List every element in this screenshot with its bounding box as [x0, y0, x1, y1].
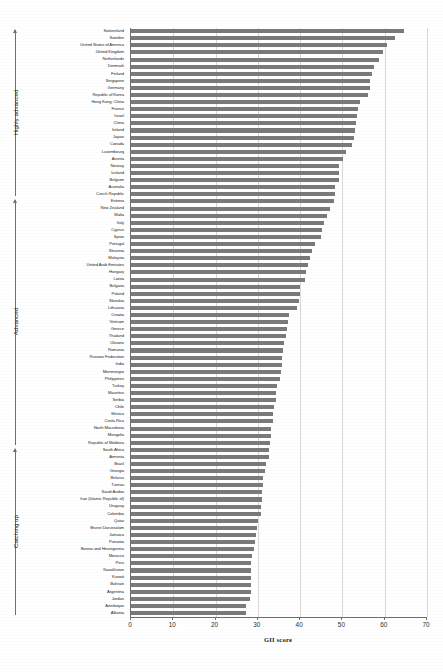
country-label: Estonia: [111, 199, 124, 204]
bar-row: [131, 128, 355, 132]
bar-row: [131, 568, 251, 572]
x-tick-mark: [215, 617, 216, 620]
country-label: Russian Federation: [90, 355, 124, 360]
bar: [131, 192, 335, 196]
bar-row: [131, 497, 262, 501]
country-label: Netherlands: [103, 57, 124, 62]
bar-row: [131, 341, 284, 345]
bar-row: [131, 93, 368, 97]
country-label: Argentina: [107, 590, 124, 595]
plot-area: [130, 28, 427, 618]
bar-row: [131, 256, 310, 260]
bar: [131, 512, 261, 516]
bar-row: [131, 221, 324, 225]
bar-row: [131, 164, 339, 168]
x-tick-mark: [299, 617, 300, 620]
country-label: New Zealand: [100, 206, 124, 211]
bar: [131, 278, 305, 282]
bar: [131, 228, 322, 232]
bar-row: [131, 157, 343, 161]
bar: [131, 185, 335, 189]
bar-row: [131, 512, 261, 516]
tier-group: Highly advanced: [0, 28, 26, 198]
country-label: Iran (Islamic Republic of): [80, 497, 124, 502]
bar-row: [131, 576, 251, 580]
bar: [131, 199, 334, 203]
bar: [131, 427, 271, 431]
country-label: Singapore: [106, 79, 124, 84]
bar-row: [131, 334, 286, 338]
country-label: Belgium: [110, 178, 124, 183]
bar-row: [131, 462, 266, 466]
bar-row: [131, 441, 270, 445]
bar-row: [131, 285, 300, 289]
country-label: Montenegro: [103, 370, 124, 375]
bar-row: [131, 405, 274, 409]
x-tick-label: 70: [422, 621, 429, 628]
bar: [131, 505, 261, 509]
bar: [131, 143, 352, 147]
x-tick-label: 60: [380, 621, 387, 628]
bar-row: [131, 561, 251, 565]
bar: [131, 568, 251, 572]
country-label: Brazil: [114, 462, 124, 467]
country-label: Qatar: [114, 519, 124, 524]
bar: [131, 320, 288, 324]
bar: [131, 405, 274, 409]
bar: [131, 334, 286, 338]
country-label: Finland: [111, 72, 124, 77]
tier-label: Highly advanced: [12, 58, 19, 168]
bar-row: [131, 58, 379, 62]
bar: [131, 221, 324, 225]
country-label: Malta: [114, 213, 124, 218]
bar: [131, 327, 287, 331]
bar-row: [131, 171, 339, 175]
bar: [131, 79, 370, 83]
country-label: Israel: [114, 114, 124, 119]
bar-row: [131, 427, 271, 431]
country-label: Bahrain: [110, 582, 124, 587]
bar-row: [131, 476, 263, 480]
bar-series: [131, 28, 427, 617]
bar: [131, 178, 339, 182]
country-label: Italy: [117, 221, 124, 226]
country-label: Colombia: [107, 512, 124, 517]
bar: [131, 29, 404, 33]
bar-row: [131, 292, 300, 296]
bar: [131, 157, 343, 161]
bar: [131, 363, 282, 367]
country-label: Serbia: [113, 398, 125, 403]
bar: [131, 207, 330, 211]
bar: [131, 235, 321, 239]
country-label: Czech Republic: [96, 192, 124, 197]
bar-row: [131, 178, 339, 182]
bar-row: [131, 469, 265, 473]
tier-group: Advanced: [0, 198, 26, 446]
bar: [131, 611, 246, 615]
x-tick-label: 50: [338, 621, 345, 628]
bar-row: [131, 554, 252, 558]
bar: [131, 604, 246, 608]
bar-row: [131, 207, 330, 211]
country-label: Bosnia and Herzegovina: [81, 547, 124, 552]
bar: [131, 554, 252, 558]
bar: [131, 483, 263, 487]
bar: [131, 597, 250, 601]
bar-row: [131, 505, 261, 509]
bar-row: [131, 185, 335, 189]
country-label: Austria: [112, 157, 124, 162]
bar-row: [131, 363, 282, 367]
bar: [131, 448, 269, 452]
bar-row: [131, 43, 387, 47]
bar: [131, 576, 251, 580]
bar-row: [131, 370, 281, 374]
bar: [131, 306, 297, 310]
country-label: Chile: [115, 405, 124, 410]
country-label: Turkey: [112, 384, 124, 389]
country-label: North Macedonia: [94, 426, 124, 431]
bar-row: [131, 65, 374, 69]
bar: [131, 313, 289, 317]
bar-row: [131, 611, 246, 615]
bar-row: [131, 412, 273, 416]
bar-row: [131, 278, 305, 282]
